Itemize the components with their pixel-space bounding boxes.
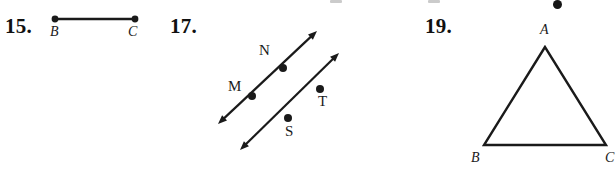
- vertex-label-b-19: B: [471, 150, 480, 166]
- vertex-label-c-19: C: [605, 150, 614, 166]
- worksheet-figure-strip: 15. B C 17. M N S T 19. A B C: [0, 0, 615, 175]
- figure-triangle-abc: [0, 0, 615, 175]
- vertex-label-a: A: [540, 22, 549, 38]
